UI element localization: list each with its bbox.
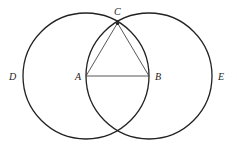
label-c: C — [114, 6, 121, 17]
euclid-construction-diagram: C A B D E — [0, 0, 237, 148]
segment-bc — [118, 23, 150, 76]
point-c-dot — [116, 22, 119, 25]
label-b: B — [155, 71, 161, 82]
segment-ac — [86, 23, 118, 76]
label-e: E — [217, 71, 224, 82]
label-d: D — [8, 71, 17, 82]
label-a: A — [74, 71, 82, 82]
